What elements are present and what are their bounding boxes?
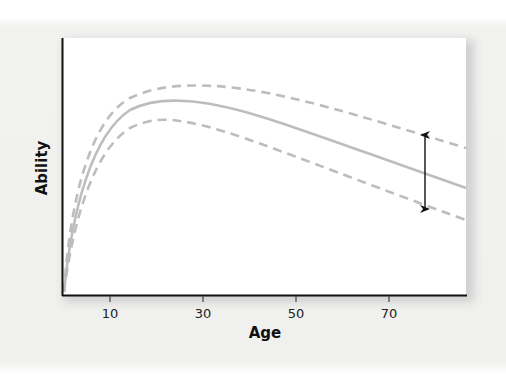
x-tick-label-50: 50 (288, 306, 305, 321)
lower-bound-curve (64, 120, 466, 292)
y-axis-title: Ability (33, 141, 51, 196)
x-axis-title: Age (249, 324, 282, 342)
x-tick-label-10: 10 (102, 306, 119, 321)
x-tick-label-70: 70 (381, 306, 398, 321)
mean-ability-curve (64, 101, 466, 292)
chart-plot (0, 0, 506, 375)
x-tick-label-30: 30 (195, 306, 212, 321)
